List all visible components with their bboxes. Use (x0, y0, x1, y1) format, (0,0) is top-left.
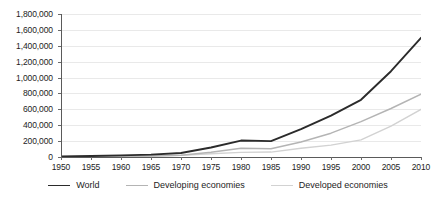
x-tick-mark (271, 157, 272, 160)
x-tick-label: 1980 (232, 162, 251, 172)
x-tick-mark (121, 157, 122, 160)
x-tick-label: 1950 (52, 162, 71, 172)
x-tick-label: 2005 (382, 162, 401, 172)
y-tick-label: 600,000 (23, 104, 53, 114)
legend-label: Developed economies (299, 180, 388, 190)
y-tick-label: 1,400,000 (16, 41, 53, 51)
x-tick-label: 2000 (352, 162, 371, 172)
x-tick-label: 1995 (322, 162, 341, 172)
x-tick-label: 1955 (82, 162, 101, 172)
y-axis-line (61, 14, 62, 158)
x-tick-mark (331, 157, 332, 160)
legend-label: World (76, 180, 99, 190)
x-tick-label: 1965 (142, 162, 161, 172)
y-tick-label: 800,000 (23, 88, 53, 98)
series-lines (61, 14, 421, 157)
x-tick-label: 1985 (262, 162, 281, 172)
x-tick-mark (151, 157, 152, 160)
plot-area: 0200,000400,000600,000800,0001,000,0001,… (61, 14, 421, 157)
y-tick-label: 0 (48, 152, 53, 162)
y-tick-label: 1,800,000 (16, 9, 53, 19)
x-tick-label: 1960 (112, 162, 131, 172)
y-tick-label: 200,000 (23, 136, 53, 146)
x-tick-mark (241, 157, 242, 160)
y-tick-label: 1,000,000 (16, 73, 53, 83)
legend-line-icon (126, 185, 148, 186)
y-tick-label: 1,200,000 (16, 57, 53, 67)
x-tick-mark (391, 157, 392, 160)
x-tick-mark (91, 157, 92, 160)
legend-line-icon (271, 185, 293, 186)
x-tick-label: 1975 (202, 162, 221, 172)
y-tick-label: 1,600,000 (16, 25, 53, 35)
legend-item[interactable]: Developing economies (126, 180, 245, 190)
series-line (61, 109, 421, 156)
x-tick-mark (181, 157, 182, 160)
x-tick-mark (421, 157, 422, 160)
x-tick-mark (211, 157, 212, 160)
legend-item[interactable]: Developed economies (271, 180, 388, 190)
legend-label: Developing economies (154, 180, 245, 190)
legend-line-icon (48, 185, 70, 186)
chart-root: 0200,000400,000600,000800,0001,000,0001,… (0, 0, 436, 206)
chart-legend: WorldDeveloping economiesDeveloped econo… (0, 180, 436, 190)
x-tick-label: 2010 (412, 162, 431, 172)
series-line (61, 94, 421, 156)
series-line (61, 38, 421, 157)
x-tick-mark (301, 157, 302, 160)
y-tick-label: 400,000 (23, 120, 53, 130)
x-tick-mark (361, 157, 362, 160)
x-axis-ticks: 1950195519601965197019751980198519901995… (61, 157, 422, 177)
legend-item[interactable]: World (48, 180, 99, 190)
x-tick-label: 1970 (172, 162, 191, 172)
x-tick-mark (61, 157, 62, 160)
x-tick-label: 1990 (292, 162, 311, 172)
